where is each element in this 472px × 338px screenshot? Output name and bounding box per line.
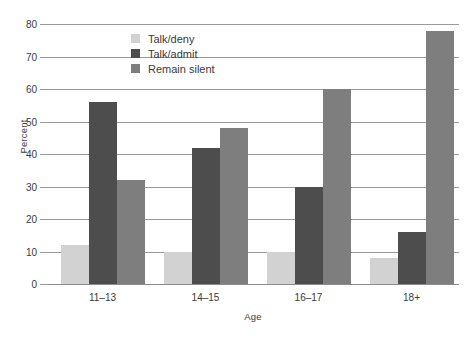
- legend-label: Remain silent: [148, 63, 215, 75]
- bar: [164, 252, 192, 285]
- y-axis-tick: [40, 219, 47, 220]
- bar: [89, 102, 117, 284]
- y-axis-tick: [40, 284, 47, 285]
- y-axis-tick: [40, 154, 47, 155]
- legend: Talk/denyTalk/admitRemain silent: [131, 31, 215, 76]
- legend-swatch: [131, 49, 140, 58]
- y-axis-tick: [40, 57, 47, 58]
- x-axis-tick-label: 14–15: [164, 292, 248, 303]
- y-axis-tick-label: 10: [26, 246, 37, 257]
- y-axis-tick-label: 30: [26, 181, 37, 192]
- bar: [295, 187, 323, 285]
- y-axis-title: Percent: [18, 92, 29, 182]
- y-axis-tick-label: 0: [31, 279, 37, 290]
- bar-group: 18+: [370, 24, 454, 284]
- legend-label: Talk/admit: [148, 48, 198, 60]
- legend-swatch: [131, 34, 140, 43]
- y-axis-tick: [40, 187, 47, 188]
- bar-chart: Percent 01020304050607080 11–1314–1516–1…: [0, 0, 472, 338]
- bar-group: 16–17: [267, 24, 351, 284]
- y-axis-tick-label: 20: [26, 214, 37, 225]
- y-axis-tick-label: 60: [26, 84, 37, 95]
- legend-label: Talk/deny: [148, 33, 194, 45]
- bar: [267, 252, 295, 285]
- bar: [398, 232, 426, 284]
- legend-swatch: [131, 64, 140, 73]
- x-axis-tick-label: 11–13: [61, 292, 145, 303]
- y-axis-tick-label: 50: [26, 116, 37, 127]
- bar: [323, 89, 351, 284]
- gridline: [47, 284, 459, 285]
- y-axis-tick: [40, 89, 47, 90]
- x-axis-tick-label: 16–17: [267, 292, 351, 303]
- bar: [117, 180, 145, 284]
- y-axis-tick: [40, 24, 47, 25]
- bar: [370, 258, 398, 284]
- x-axis-tick-label: 18+: [370, 292, 454, 303]
- bar: [192, 148, 220, 285]
- y-axis-tick: [40, 252, 47, 253]
- bar: [426, 31, 454, 285]
- legend-item: Talk/admit: [131, 46, 215, 61]
- y-axis-tick: [40, 122, 47, 123]
- bar: [220, 128, 248, 284]
- bars-layer: 11–1314–1516–1718+: [47, 24, 459, 284]
- y-axis-tick-label: 80: [26, 19, 37, 30]
- x-axis-title: Age: [47, 311, 459, 322]
- bar: [61, 245, 89, 284]
- legend-item: Remain silent: [131, 61, 215, 76]
- plot-area: 01020304050607080 11–1314–1516–1718+: [47, 24, 459, 284]
- y-axis-tick-label: 40: [26, 149, 37, 160]
- legend-item: Talk/deny: [131, 31, 215, 46]
- y-axis-tick-label: 70: [26, 51, 37, 62]
